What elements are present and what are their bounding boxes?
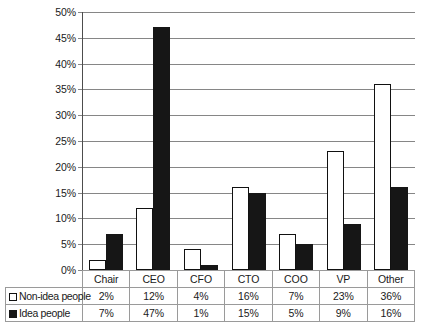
bar	[106, 234, 123, 270]
y-axis-tick-label: 50%	[36, 7, 76, 17]
legend-entry: Non-idea people	[6, 288, 83, 305]
category-header-cell: CTO	[225, 271, 272, 288]
bar-group	[225, 12, 273, 270]
bar	[279, 234, 296, 270]
bars-layer	[82, 12, 415, 270]
value-cell: 1%	[177, 305, 224, 322]
open-square-icon	[9, 293, 17, 301]
table-row: ChairCEOCFOCTOCOOVPOther	[6, 271, 415, 288]
bar-group	[177, 12, 225, 270]
y-axis-tick-label: 5%	[36, 239, 76, 249]
value-cell: 36%	[367, 288, 414, 305]
y-axis-tick-label: 25%	[36, 136, 76, 146]
legend-label: Non-idea people	[19, 290, 91, 302]
category-header-cell: COO	[272, 271, 319, 288]
bar	[374, 84, 391, 270]
bar	[344, 224, 361, 270]
category-header-cell: CEO	[130, 271, 177, 288]
y-axis-tick-label: 10%	[36, 213, 76, 223]
bar	[391, 187, 408, 270]
bar	[249, 193, 266, 270]
value-cell: 47%	[130, 305, 177, 322]
bar	[184, 249, 201, 270]
value-cell: 16%	[225, 288, 272, 305]
legend-entry: Idea people	[6, 305, 83, 322]
value-cell: 7%	[272, 288, 319, 305]
bar-group	[367, 12, 415, 270]
bar-group	[130, 12, 178, 270]
value-cell: 12%	[130, 288, 177, 305]
bar	[327, 151, 344, 270]
bar-group	[82, 12, 130, 270]
bar	[136, 208, 153, 270]
y-axis-tick-label: 20%	[36, 162, 76, 172]
bar	[232, 187, 249, 270]
y-axis-tick-label: 40%	[36, 59, 76, 69]
category-header-cell: Chair	[83, 271, 130, 288]
bar-group	[320, 12, 368, 270]
value-cell: 16%	[367, 305, 414, 322]
bar	[296, 244, 313, 270]
bar	[89, 260, 106, 270]
value-cell: 7%	[83, 305, 130, 322]
value-cell: 23%	[320, 288, 367, 305]
bar	[153, 27, 170, 270]
table-row: Non-idea people2%12%4%16%7%23%36%	[6, 288, 415, 305]
y-axis-tick-label: 15%	[36, 188, 76, 198]
filled-square-icon	[9, 310, 17, 318]
value-cell: 9%	[320, 305, 367, 322]
bar-chart: 50%45%40%35%30%25%20%15%10%5%0% ChairCEO…	[0, 0, 423, 335]
value-cell: 4%	[177, 288, 224, 305]
y-axis-tick-label: 30%	[36, 110, 76, 120]
category-header-cell: Other	[367, 271, 414, 288]
y-axis-tick-label: 35%	[36, 84, 76, 94]
value-cell: 5%	[272, 305, 319, 322]
y-axis-tick-label: 45%	[36, 33, 76, 43]
category-header-cell: VP	[320, 271, 367, 288]
table-row: Idea people7%47%1%15%5%9%16%	[6, 305, 415, 322]
bar-group	[272, 12, 320, 270]
value-cell: 15%	[225, 305, 272, 322]
data-table: ChairCEOCFOCTOCOOVPOtherNon-idea people2…	[5, 270, 415, 322]
category-header-cell: CFO	[177, 271, 224, 288]
table-corner-cell	[6, 271, 83, 288]
legend-label: Idea people	[19, 307, 70, 319]
